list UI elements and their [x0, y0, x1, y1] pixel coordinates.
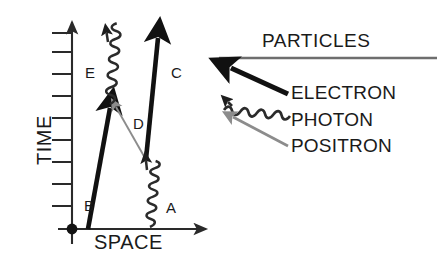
photon-arrow-A [146, 161, 147, 170]
vertex-label-E: E [85, 65, 95, 80]
origin-marker-dot [67, 224, 78, 235]
vertex-label-C: C [171, 65, 182, 80]
photon-arrow-E [107, 33, 108, 42]
particle-lines [88, 23, 160, 229]
feynman-diagram-figure: TIME SPACE A B C D E PARTICLES ELECTRON … [0, 0, 440, 261]
time-axis-label: TIME [34, 115, 54, 165]
diagram-canvas [0, 0, 440, 261]
time-axis-ticks [52, 33, 72, 206]
legend-electron-arrow [231, 68, 288, 94]
photon-line-A [147, 161, 160, 227]
axis-group [52, 22, 206, 244]
vertex-label-A: A [166, 200, 176, 215]
legend-label-photon: PHOTON [291, 110, 373, 129]
space-axis-label: SPACE [94, 232, 163, 252]
legend-label-positron: POSITRON [291, 136, 392, 155]
legend-positron-arrow [233, 117, 288, 146]
photon-line-E [106, 23, 120, 104]
electron-line-C [146, 38, 158, 159]
vertex-label-D: D [133, 116, 144, 131]
vertex-label-B: B [84, 198, 94, 213]
legend-title: PARTICLES [262, 31, 370, 50]
legend-label-electron: ELECTRON [291, 83, 396, 102]
